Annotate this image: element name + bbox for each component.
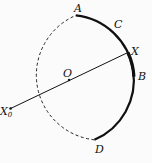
label-C: C bbox=[114, 18, 123, 31]
label-X: X bbox=[130, 45, 140, 58]
label-X0-subscript: 0 bbox=[8, 111, 13, 119]
circle-diagram: A C X B O D X0 bbox=[0, 0, 152, 163]
label-A: A bbox=[73, 2, 82, 15]
label-X0: X0 bbox=[0, 105, 13, 119]
label-O: O bbox=[63, 67, 72, 80]
point-X0 bbox=[9, 107, 12, 110]
solid-arc-A-D bbox=[76, 15, 134, 139]
label-D: D bbox=[94, 143, 104, 156]
label-B: B bbox=[137, 70, 146, 83]
diagram-svg: A C X B O D X0 bbox=[0, 0, 152, 163]
